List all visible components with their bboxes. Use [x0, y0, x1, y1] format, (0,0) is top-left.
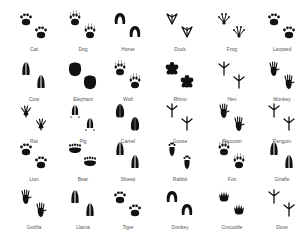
hand-foot-icon: [207, 100, 257, 136]
animal-label: Llama: [58, 224, 108, 230]
footprint-dove: Dove: [257, 186, 307, 230]
cloven-hoof-icon: [58, 186, 108, 222]
bird-foot-icon: [257, 186, 307, 222]
footprint-llama: Llama: [58, 186, 108, 230]
animal-label: Dove: [257, 224, 307, 230]
animal-label: Rabbit: [155, 176, 205, 182]
round-pad-icon: [58, 58, 108, 94]
long-paw-icon: [155, 138, 205, 174]
footprint-fox: Fox: [207, 138, 257, 182]
hand-foot-icon: [9, 186, 59, 222]
frog-foot-icon: [207, 8, 257, 44]
three-toe-pad-icon: [155, 58, 205, 94]
footprint-donkey: Donkey: [155, 186, 205, 230]
footprint-dog: Dog: [58, 8, 108, 52]
footprint-rabbit: Rabbit: [155, 138, 205, 182]
oval-pad-icon: [103, 100, 153, 136]
footprint-sheep: Sheep: [103, 138, 153, 182]
animal-label: Donkey: [155, 224, 205, 230]
footprint-tiger: Tiger: [103, 186, 153, 230]
animal-label: Bear: [58, 176, 108, 182]
cloven-hoof-icon: [9, 58, 59, 94]
crocodile-foot-icon: [207, 186, 257, 222]
animal-label: Giraffe: [257, 176, 307, 182]
animal-label: Frog: [207, 46, 257, 52]
animal-label: Cat: [9, 46, 59, 52]
footprint-elephant: Elephant: [58, 58, 108, 102]
bear-paw-icon: [58, 138, 108, 174]
animal-label: Tiger: [103, 224, 153, 230]
footprint-duck: Duck: [155, 8, 205, 52]
footprint-horse: Horse: [103, 8, 153, 52]
rodent-foot-icon: [9, 100, 59, 136]
animal-label: Horse: [103, 46, 153, 52]
footprint-frog: Frog: [207, 8, 257, 52]
cloven-hoof-icon: [103, 138, 153, 174]
paw-icon: [9, 8, 59, 44]
animal-label: Lion: [9, 176, 59, 182]
bird-foot-icon: [257, 100, 307, 136]
webbed-foot-icon: [155, 8, 205, 44]
footprint-monkey: Monkey: [257, 58, 307, 102]
footprint-lion: Lion: [9, 138, 59, 182]
footprint-cat: Cat: [9, 8, 59, 52]
hand-foot-icon: [257, 58, 307, 94]
hoof-horseshoe-icon: [103, 8, 153, 44]
animal-label: Gorilla: [9, 224, 59, 230]
animal-label: Sheep: [103, 176, 153, 182]
paw-claws-icon: [207, 138, 257, 174]
footprint-cow: Cow: [9, 58, 59, 102]
footprint-bear: Bear: [58, 138, 108, 182]
bird-foot-icon: [155, 100, 205, 136]
hoof-horseshoe-icon: [155, 186, 205, 222]
cloven-hoof-dewclaw-icon: [58, 100, 108, 136]
paw-icon: [103, 186, 153, 222]
footprint-giraffe: Giraffe: [257, 138, 307, 182]
animal-label: Duck: [155, 46, 205, 52]
cloven-hoof-icon: [257, 138, 307, 174]
footprint-crocodile: Crocodile: [207, 186, 257, 230]
footprint-leopard: Leopard: [257, 8, 307, 52]
paw-claws-icon: [58, 8, 108, 44]
bird-foot-icon: [207, 58, 257, 94]
footprint-rhino: Rhino: [155, 58, 205, 102]
animal-label: Fox: [207, 176, 257, 182]
footprint-wolf: Wolf: [103, 58, 153, 102]
paw-icon: [9, 138, 59, 174]
paw-claws-icon: [103, 58, 153, 94]
paw-icon: [257, 8, 307, 44]
animal-label: Crocodile: [207, 224, 257, 230]
animal-label: Leopard: [257, 46, 307, 52]
animal-label: Dog: [58, 46, 108, 52]
footprint-hen: Hen: [207, 58, 257, 102]
footprint-gorilla: Gorilla: [9, 186, 59, 230]
